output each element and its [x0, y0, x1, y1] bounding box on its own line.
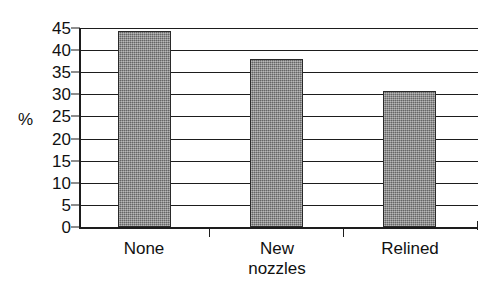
y-tick-label: 20: [40, 131, 71, 148]
y-tick-label: 45: [40, 20, 71, 37]
y-tick-label: 15: [40, 153, 71, 170]
y-tick-label: 35: [40, 64, 71, 81]
bar-relined: [383, 91, 436, 227]
bar-none: [118, 31, 171, 227]
gridline: [79, 28, 478, 29]
y-tick-label: 0: [40, 219, 71, 236]
y-axis-label: %: [18, 110, 33, 130]
bar-chart: % 45 40 35 30 25 20 15 10 5 0: [0, 0, 496, 291]
category-label-new-nozzles: New nozzles: [237, 239, 317, 279]
y-tick-label: 5: [40, 197, 71, 214]
y-tick-label: 30: [40, 86, 71, 103]
y-tick-label: 10: [40, 175, 71, 192]
category-label-relined: Relined: [368, 239, 452, 259]
y-tick-label: 40: [40, 42, 71, 59]
category-tick: [343, 229, 344, 237]
y-tick-label: 25: [40, 108, 71, 125]
y-axis-tick-labels: 45 40 35 30 25 20 15 10 5 0: [40, 0, 71, 291]
bar-new-nozzles: [250, 59, 303, 227]
axis-end-cap: [477, 221, 478, 230]
category-tick: [209, 229, 210, 237]
gridline-baseline: [79, 227, 478, 229]
category-label-none: None: [104, 239, 184, 259]
plot-area: [79, 28, 478, 227]
